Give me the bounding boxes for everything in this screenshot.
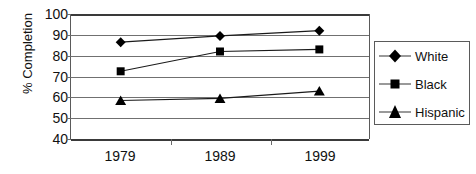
data-point-white-1989 — [215, 31, 225, 41]
legend-label: Hispanic — [415, 106, 465, 119]
legend-item-hispanic[interactable]: Hispanic — [375, 98, 469, 126]
x-tick-mark — [271, 139, 272, 145]
x-tick-label-1999: 1999 — [304, 148, 335, 164]
data-point-black-1989 — [216, 48, 224, 56]
legend-label: White — [415, 50, 448, 63]
square-marker-icon — [375, 71, 415, 97]
x-axis-line — [71, 139, 369, 141]
series-layer — [71, 14, 369, 139]
y-tick-label: 40 — [28, 132, 68, 146]
x-tick-label-1979: 1979 — [104, 148, 135, 164]
diamond-marker-icon — [375, 43, 415, 69]
plot-area — [70, 14, 370, 139]
y-tick-label: 70 — [28, 70, 68, 84]
legend-label: Black — [415, 78, 447, 91]
x-tick-label-1989: 1989 — [204, 148, 235, 164]
legend-item-black[interactable]: Black — [375, 70, 469, 98]
data-point-black-1999 — [315, 45, 323, 53]
data-point-black-1979 — [117, 67, 125, 75]
cropped-caption — [0, 169, 476, 174]
y-tick-mark — [66, 139, 71, 140]
data-point-white-1999 — [314, 26, 324, 36]
y-tick-label: 80 — [28, 49, 68, 63]
y-tick-label: 60 — [28, 90, 68, 104]
y-axis-tick-labels: 100 90 80 70 60 50 40 — [28, 0, 68, 174]
y-tick-label: 50 — [28, 111, 68, 125]
x-tick-mark — [171, 139, 172, 145]
y-tick-label: 90 — [28, 28, 68, 42]
y-tick-label: 100 — [28, 7, 68, 21]
legend-item-white[interactable]: White — [375, 42, 469, 70]
triangle-marker-icon — [375, 99, 415, 125]
data-point-white-1979 — [116, 37, 126, 47]
chart-screenshot: % Completion 100 90 80 70 60 50 40 — [0, 0, 476, 174]
legend: White Black Hispanic — [374, 41, 470, 125]
